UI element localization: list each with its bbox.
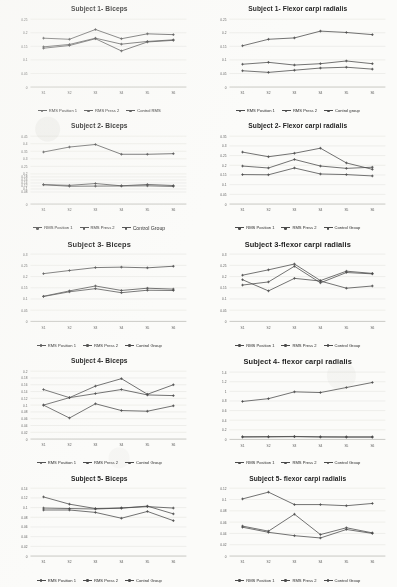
chart-subject-1-biceps[interactable]: Subject 1- Biceps00.050.10.150.20.25S1S2…: [0, 0, 199, 117]
legend-item[interactable]: RMS Press 2: [281, 578, 316, 583]
legend-item[interactable]: RMS Press 2: [282, 108, 317, 113]
legend-item[interactable]: Control Group: [125, 578, 162, 583]
chart-cell-subject-2-flexor: Subject 2- Flexor carpi radialis00.050.1…: [199, 117, 397, 234]
plot-svg: 00.050.10.150.20.250.3S1S2S3S4S5S6: [203, 250, 392, 339]
svg-text:0.35: 0.35: [220, 135, 226, 139]
legend-line-icon: [37, 580, 46, 581]
legend-label: RMS Position 1: [246, 460, 274, 465]
svg-text:0: 0: [26, 555, 28, 559]
svg-text:S6: S6: [370, 326, 374, 330]
legend-line-icon: [281, 580, 290, 581]
chart-title: Subject 2- Biceps: [0, 123, 199, 130]
chart-subject-3-flexor[interactable]: Subject 3-flexor carpi radialis00.050.10…: [199, 235, 397, 352]
svg-text:0.05: 0.05: [220, 309, 226, 313]
svg-text:0: 0: [224, 202, 226, 206]
svg-text:S5: S5: [344, 326, 348, 330]
legend-item[interactable]: Control Group: [324, 460, 361, 465]
svg-text:0: 0: [26, 85, 28, 89]
legend-item[interactable]: RMS Position 1: [235, 343, 274, 348]
svg-text:S4: S4: [119, 561, 123, 565]
legend-item[interactable]: RMS Press 2: [83, 460, 118, 465]
plot-area: 00.050.10.150.20.25S1S2S3S4S5S6: [203, 15, 392, 105]
legend-item[interactable]: RMS Position 1: [235, 460, 274, 465]
svg-text:0.18: 0.18: [21, 376, 27, 380]
legend-label: Control Group: [133, 225, 166, 231]
legend-item[interactable]: RMS Position 1: [37, 578, 76, 583]
svg-text:S1: S1: [41, 561, 45, 565]
svg-text:0.25: 0.25: [21, 264, 27, 268]
svg-text:0.3: 0.3: [23, 157, 28, 161]
legend-item[interactable]: RMS Press 2: [83, 578, 118, 583]
legend-label: Control Group: [136, 578, 162, 583]
legend-label: Control Group: [335, 578, 361, 583]
svg-text:0.15: 0.15: [21, 44, 27, 48]
legend-item[interactable]: RMS Press 2: [80, 225, 115, 230]
svg-text:S5: S5: [344, 91, 348, 95]
svg-text:0.2: 0.2: [23, 172, 28, 176]
chart-subject-2-biceps[interactable]: Subject 2- Biceps00.080.10.120.140.160.1…: [0, 117, 199, 234]
chart-subject-3-biceps[interactable]: Subject 3- Biceps00.050.10.150.20.250.3S…: [0, 235, 199, 352]
svg-text:S5: S5: [344, 443, 348, 447]
svg-text:S4: S4: [318, 561, 322, 565]
svg-text:0.25: 0.25: [220, 264, 226, 268]
legend-line-icon: [281, 345, 290, 346]
legend-item[interactable]: RMS Position 1: [236, 108, 275, 113]
legend-item[interactable]: RMS Position 1: [37, 343, 76, 348]
svg-text:0: 0: [224, 555, 226, 559]
chart-legend: RMS Position 1RMS Press 2Control RMS: [0, 104, 199, 116]
legend-item[interactable]: RMS Position 1: [38, 108, 77, 113]
plot-svg: 00.050.10.150.20.25S1S2S3S4S5S6: [203, 15, 392, 105]
svg-text:0.14: 0.14: [21, 390, 27, 394]
svg-text:0.12: 0.12: [21, 397, 27, 401]
svg-text:S4: S4: [318, 208, 322, 212]
legend-label: RMS Press 2: [95, 108, 119, 113]
chart-subject-4-flexor[interactable]: Subject 4- flexor carpi radialis00.20.40…: [199, 352, 397, 469]
legend-item[interactable]: RMS Press 2: [281, 460, 316, 465]
svg-text:0: 0: [224, 85, 226, 89]
svg-text:0.25: 0.25: [220, 17, 226, 21]
legend-label: RMS Press 2: [292, 343, 316, 348]
legend-item[interactable]: RMS Position 1: [235, 578, 274, 583]
legend-item[interactable]: Control RMS: [126, 108, 160, 113]
svg-text:S3: S3: [292, 561, 296, 565]
chart-cell-subject-3-biceps: Subject 3- Biceps00.050.10.150.20.250.3S…: [0, 235, 199, 352]
legend-item[interactable]: RMS Position 1: [235, 225, 274, 230]
chart-subject-5-biceps[interactable]: Subject 5- Biceps00.020.040.060.080.10.1…: [0, 470, 199, 587]
legend-item[interactable]: Control Group: [324, 225, 361, 230]
legend-item[interactable]: Control Group: [324, 578, 361, 583]
svg-text:0.06: 0.06: [220, 521, 226, 525]
svg-text:0.1: 0.1: [23, 58, 28, 62]
chart-legend: RMS Position 1RMS Press 2Control Group: [199, 222, 397, 234]
svg-text:S1: S1: [240, 91, 244, 95]
legend-item[interactable]: RMS Position 1: [37, 460, 76, 465]
chart-cell-subject-1-biceps: Subject 1- Biceps00.050.10.150.20.25S1S2…: [0, 0, 199, 117]
legend-item[interactable]: RMS Position 1: [33, 225, 72, 230]
chart-subject-5-flexor[interactable]: Subject 5- flexor carpi radialis00.020.0…: [199, 470, 397, 587]
chart-subject-2-flexor[interactable]: Subject 2- Flexor carpi radialis00.050.1…: [199, 117, 397, 234]
legend-item[interactable]: RMS Press 2: [281, 225, 316, 230]
legend-item[interactable]: Control Group: [324, 343, 361, 348]
svg-text:0.06: 0.06: [21, 417, 27, 421]
svg-text:S1: S1: [240, 561, 244, 565]
legend-item[interactable]: Control Group: [125, 343, 162, 348]
legend-item[interactable]: RMS Press 2: [83, 343, 118, 348]
svg-text:0.1: 0.1: [222, 58, 227, 62]
svg-text:0.05: 0.05: [220, 193, 226, 197]
chart-subject-4-biceps[interactable]: Subject 4- Biceps00.020.040.060.080.10.1…: [0, 352, 199, 469]
legend-item[interactable]: Control Group: [122, 225, 166, 231]
legend-line-icon: [125, 580, 134, 581]
legend-item[interactable]: RMS Press 2: [84, 108, 119, 113]
svg-text:0.02: 0.02: [21, 430, 27, 434]
svg-text:S3: S3: [93, 208, 97, 212]
legend-item[interactable]: RMS Press 2: [281, 343, 316, 348]
legend-label: RMS Press 2: [94, 460, 118, 465]
legend-line-icon: [235, 462, 244, 463]
svg-text:S1: S1: [240, 208, 244, 212]
chart-subject-1-flexor[interactable]: Subject 1- Flexor carpi radialis00.050.1…: [199, 0, 397, 117]
legend-item[interactable]: Control group: [324, 108, 360, 113]
svg-text:0.8: 0.8: [222, 399, 227, 403]
svg-text:S6: S6: [171, 326, 175, 330]
svg-text:S6: S6: [171, 561, 175, 565]
legend-item[interactable]: Control Group: [125, 460, 162, 465]
svg-text:0.06: 0.06: [21, 526, 27, 530]
